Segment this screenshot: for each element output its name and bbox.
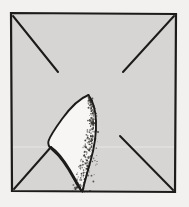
- figure-container: Origami fold step diagram Square sheet s…: [0, 0, 189, 207]
- origami-fold-diagram: Origami fold step diagram Square sheet s…: [0, 0, 189, 207]
